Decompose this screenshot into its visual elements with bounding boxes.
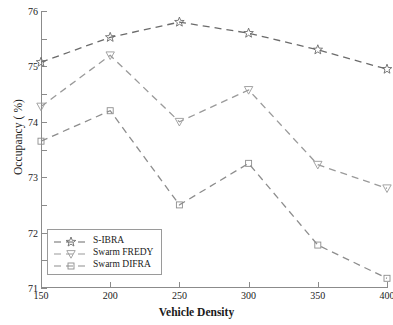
legend-marker-triangle-down xyxy=(53,246,89,258)
chart-legend: S-IBRA Swarm FREDY Swarm DIFRA xyxy=(47,229,162,275)
y-tick-mark: 66 xyxy=(42,288,47,289)
y-tick-label: 74 xyxy=(28,116,38,127)
x-axis-title: Vehicle Density xyxy=(0,306,393,318)
legend-label: Swarm FREDY xyxy=(89,247,153,257)
x-tick-label: 400 xyxy=(380,290,393,301)
x-tick-label: 350 xyxy=(310,290,325,301)
legend-item-2[interactable]: Swarm DIFRA xyxy=(53,258,153,270)
x-tick-label: 250 xyxy=(172,290,187,301)
y-tick-label: 76 xyxy=(28,6,38,17)
series-1 xyxy=(37,52,391,193)
legend-label: Swarm DIFRA xyxy=(89,259,151,269)
series-line xyxy=(41,55,387,188)
y-tick-label: 72 xyxy=(28,227,38,238)
legend-label: S-IBRA xyxy=(89,235,124,245)
occupancy-vs-vehicle-density-chart: Occupancy ( %) 6667686970717273747576 15… xyxy=(0,0,393,325)
data-point-star xyxy=(382,64,392,73)
legend-item-1[interactable]: Swarm FREDY xyxy=(53,246,153,258)
y-axis-title: Occupancy ( %) xyxy=(12,57,24,217)
legend-marker-square xyxy=(53,258,89,270)
y-tick-label: 73 xyxy=(28,172,38,183)
series-line xyxy=(41,22,387,69)
data-point-star xyxy=(313,45,323,54)
data-point-triangle-down xyxy=(383,185,391,193)
x-tick-label: 200 xyxy=(103,290,118,301)
x-tick-label: 150 xyxy=(34,290,49,301)
x-tick-mark: 400 xyxy=(387,282,388,287)
legend-marker-star xyxy=(53,234,89,246)
data-point-star xyxy=(244,28,254,37)
x-tick-label: 300 xyxy=(241,290,256,301)
legend-item-0[interactable]: S-IBRA xyxy=(53,234,153,246)
series-0 xyxy=(36,17,392,73)
y-tick-label: 75 xyxy=(28,61,38,72)
